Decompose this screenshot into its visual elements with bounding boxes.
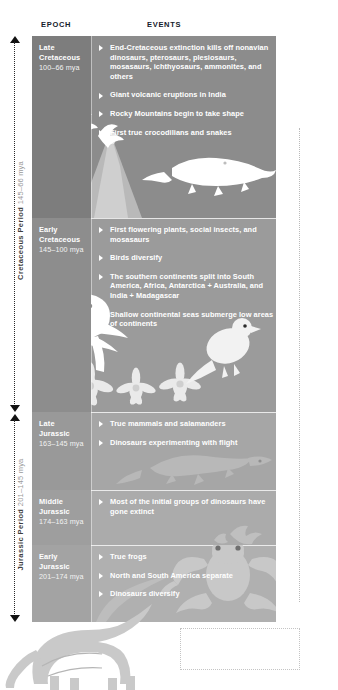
epoch-name: Late Cretaceous <box>39 43 86 62</box>
period-name: Jurassic Period <box>16 509 25 571</box>
axis-arrow-up-icon <box>10 36 20 43</box>
events-cell-late-cretaceous: End-Cretaceous extinction kills off nona… <box>99 36 276 218</box>
event-item: True frogs <box>99 552 276 562</box>
event-text: End-Cretaceous extinction kills off nona… <box>110 43 276 81</box>
event-text: Most of the initial groups of dinosaurs … <box>110 497 276 516</box>
axis-arrow-down-icon <box>10 615 20 622</box>
bullet-triangle-icon <box>99 440 103 446</box>
column-header-epoch: EPOCH <box>41 20 71 29</box>
period-label-jurassic: Jurassic Period 201–145 mya <box>16 455 25 575</box>
column-header-events: EVENTS <box>147 20 181 29</box>
timeline-band-late-cretaceous[interactable]: Late Cretaceous 100–66 mya End-Cretaceou… <box>32 36 276 218</box>
event-text: Shallow continental seas submerge low ar… <box>110 310 276 329</box>
event-item: Birds diversify <box>99 253 276 263</box>
epoch-range: 100–66 mya <box>39 63 86 73</box>
event-text: Dinosaurs experimenting with flight <box>110 438 276 448</box>
timeline-infographic: EPOCH EVENTS Cretaceous Period 145–66 my… <box>0 0 338 690</box>
bullet-triangle-icon <box>99 255 103 261</box>
bullet-triangle-icon <box>99 111 103 117</box>
event-text: True mammals and salamanders <box>110 419 276 429</box>
timeline-band-late-jurassic[interactable]: Late Jurassic 163–145 mya True mammals a… <box>32 412 276 490</box>
events-cell-early-cretaceous: First flowering plants, social insects, … <box>99 218 276 412</box>
axis-arrow-down-icon <box>10 405 20 412</box>
epoch-cell-late-cretaceous: Late Cretaceous 100–66 mya <box>32 36 91 218</box>
event-item: Dinosaurs diversify <box>99 589 276 599</box>
bullet-triangle-icon <box>99 499 103 505</box>
event-text: Giant volcanic eruptions in India <box>110 90 276 100</box>
epoch-cell-late-jurassic: Late Jurassic 163–145 mya <box>32 412 91 490</box>
timeline-band-middle-jurassic[interactable]: Middle Jurassic 174–163 mya Most of the … <box>32 490 276 545</box>
events-cell-early-jurassic: True frogs North and South America separ… <box>99 545 276 622</box>
event-text: First flowering plants, social insects, … <box>110 225 276 244</box>
period-axis-jurassic: Jurassic Period 201–145 mya <box>14 414 16 622</box>
event-item: Rocky Mountains begin to take shape <box>99 109 276 119</box>
epoch-name: Middle Jurassic <box>39 497 86 516</box>
event-text: North and South America separate <box>110 571 276 581</box>
column-separator <box>91 545 92 622</box>
event-text: Birds diversify <box>110 253 276 263</box>
bullet-triangle-icon <box>99 312 103 318</box>
column-separator <box>91 490 92 545</box>
event-text: Dinosaurs diversify <box>110 589 276 599</box>
column-separator <box>91 412 92 490</box>
event-item: Shallow continental seas submerge low ar… <box>99 310 276 329</box>
period-range: 201–145 mya <box>16 459 25 507</box>
timeline-band-early-cretaceous[interactable]: Early Cretaceous 145–100 mya First flowe… <box>32 218 276 412</box>
event-item: Most of the initial groups of dinosaurs … <box>99 497 276 516</box>
event-item: The southern continents split into South… <box>99 272 276 301</box>
timeline-band-early-jurassic[interactable]: Early Jurassic 201–174 mya True frogs No… <box>32 545 276 622</box>
epoch-range: 145–100 mya <box>39 245 86 255</box>
bullet-triangle-icon <box>99 130 103 136</box>
epoch-name: Early Jurassic <box>39 552 86 571</box>
event-item: Giant volcanic eruptions in India <box>99 90 276 100</box>
bullet-triangle-icon <box>99 45 103 51</box>
epoch-cell-early-cretaceous: Early Cretaceous 145–100 mya <box>32 218 91 412</box>
event-item: North and South America separate <box>99 571 276 581</box>
epoch-cell-early-jurassic: Early Jurassic 201–174 mya <box>32 545 91 622</box>
period-axis-cretaceous: Cretaceous Period 145–66 mya <box>14 36 16 412</box>
event-text: True frogs <box>110 552 276 562</box>
period-label-cretaceous: Cretaceous Period 145–66 mya <box>16 161 25 281</box>
bullet-triangle-icon <box>99 573 103 579</box>
event-item: First flowering plants, social insects, … <box>99 225 276 244</box>
period-name: Cretaceous Period <box>16 207 25 280</box>
bullet-triangle-icon <box>99 591 103 597</box>
bullet-triangle-icon <box>99 421 103 427</box>
event-text: Rocky Mountains begin to take shape <box>110 109 276 119</box>
event-item: Dinosaurs experimenting with flight <box>99 438 276 448</box>
bullet-triangle-icon <box>99 227 103 233</box>
epoch-range: 174–163 mya <box>39 517 86 527</box>
axis-arrow-up-icon <box>10 414 20 421</box>
column-separator <box>91 36 92 218</box>
epoch-range: 201–174 mya <box>39 572 86 582</box>
event-item: End-Cretaceous extinction kills off nona… <box>99 43 276 81</box>
epoch-name: Early Cretaceous <box>39 225 86 244</box>
event-text: First true crocodilians and snakes <box>110 128 276 138</box>
column-separator <box>91 218 92 412</box>
bullet-triangle-icon <box>99 274 103 280</box>
epoch-cell-middle-jurassic: Middle Jurassic 174–163 mya <box>32 490 91 545</box>
bullet-triangle-icon <box>99 93 103 99</box>
event-text: The southern continents split into South… <box>110 272 276 301</box>
event-item: True mammals and salamanders <box>99 419 276 429</box>
period-range: 145–66 mya <box>16 161 25 204</box>
bottom-dotted-box <box>180 628 300 670</box>
bullet-triangle-icon <box>99 554 103 560</box>
event-item: First true crocodilians and snakes <box>99 128 276 138</box>
events-cell-middle-jurassic: Most of the initial groups of dinosaurs … <box>99 490 276 545</box>
epoch-name: Late Jurassic <box>39 419 86 438</box>
right-dotted-guide <box>299 128 300 602</box>
epoch-range: 163–145 mya <box>39 439 86 449</box>
events-cell-late-jurassic: True mammals and salamanders Dinosaurs e… <box>99 412 276 490</box>
